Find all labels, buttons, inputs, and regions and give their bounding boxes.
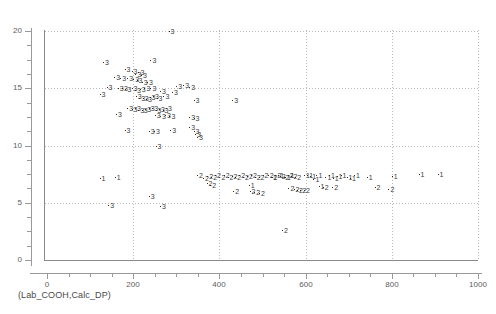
data-point-dot bbox=[127, 108, 128, 109]
data-point-dot bbox=[150, 60, 151, 61]
data-point-dot bbox=[125, 89, 126, 90]
data-point-dot bbox=[224, 175, 225, 176]
y-tick-minor bbox=[27, 45, 31, 46]
data-point-group-label: 1 bbox=[318, 172, 322, 179]
data-point-dot bbox=[122, 88, 123, 89]
data-point-dot bbox=[259, 177, 260, 178]
data-point-dot bbox=[228, 177, 229, 178]
data-point-dot bbox=[275, 175, 276, 176]
data-point-group-label: 1 bbox=[356, 172, 360, 179]
data-point-group-label: 3 bbox=[146, 85, 150, 92]
data-point-dot bbox=[319, 186, 320, 187]
x-tick-label: 800 bbox=[372, 281, 412, 289]
x-tick-minor bbox=[284, 273, 285, 277]
data-point-dot bbox=[316, 175, 317, 176]
data-point-dot bbox=[120, 78, 121, 79]
data-point-group-label: 3 bbox=[171, 28, 175, 35]
x-tick-major bbox=[392, 273, 393, 279]
x-tick-minor bbox=[349, 273, 350, 277]
data-point-group-label: 3 bbox=[127, 127, 131, 134]
data-point-dot bbox=[157, 98, 158, 99]
data-point-group-label: 1 bbox=[394, 173, 398, 180]
data-point-group-label: 2 bbox=[265, 172, 269, 179]
data-point-dot bbox=[142, 82, 143, 83]
data-point-dot bbox=[259, 193, 260, 194]
data-point-group-label: 1 bbox=[421, 171, 425, 178]
data-point-dot bbox=[138, 72, 139, 73]
data-point-dot bbox=[137, 80, 138, 81]
gridline-vertical bbox=[133, 30, 134, 260]
data-point-dot bbox=[197, 137, 198, 138]
x-tick-minor bbox=[155, 273, 156, 277]
y-tick-label: 20 bbox=[0, 27, 22, 35]
data-point-dot bbox=[210, 185, 211, 186]
y-tick-minor bbox=[27, 131, 31, 132]
data-point-group-label: 2 bbox=[212, 182, 216, 189]
data-point-dot bbox=[127, 78, 128, 79]
data-point-dot bbox=[142, 110, 143, 111]
data-point-group-label: 3 bbox=[162, 203, 166, 210]
data-point-group-label: 3 bbox=[196, 97, 200, 104]
data-point-dot bbox=[304, 190, 305, 191]
x-tick-minor bbox=[327, 273, 328, 277]
data-point-group-label: 2 bbox=[334, 184, 338, 191]
data-point-dot bbox=[189, 87, 190, 88]
x-axis-spine bbox=[44, 260, 478, 261]
data-point-dot bbox=[150, 97, 151, 98]
x-tick-major bbox=[219, 273, 220, 279]
data-point-dot bbox=[155, 115, 156, 116]
data-point-dot bbox=[107, 87, 108, 88]
data-point-dot bbox=[135, 74, 136, 75]
data-point-dot bbox=[341, 175, 342, 176]
data-point-group-label: 1 bbox=[102, 175, 106, 182]
data-point-group-label: 2 bbox=[261, 190, 265, 197]
data-point-dot bbox=[310, 176, 311, 177]
data-point-dot bbox=[139, 98, 140, 99]
data-point-group-label: 1 bbox=[117, 174, 121, 181]
data-point-dot bbox=[247, 176, 248, 177]
x-tick-label: 600 bbox=[286, 281, 326, 289]
data-point-dot bbox=[243, 177, 244, 178]
x-tick-minor bbox=[112, 273, 113, 277]
data-point-group-label: 2 bbox=[306, 187, 310, 194]
y-tick-label: 0 bbox=[0, 256, 22, 264]
data-point-dot bbox=[166, 108, 167, 109]
data-point-dot bbox=[249, 185, 250, 186]
data-point-dot bbox=[194, 118, 195, 119]
data-point-dot bbox=[183, 85, 184, 86]
data-point-dot bbox=[115, 177, 116, 178]
data-point-dot bbox=[263, 175, 264, 176]
x-tick-minor bbox=[263, 273, 264, 277]
data-point-dot bbox=[288, 175, 289, 176]
data-point-dot bbox=[132, 88, 133, 89]
data-point-group-label: 3 bbox=[162, 113, 166, 120]
data-point-dot bbox=[132, 109, 133, 110]
data-point-dot bbox=[207, 176, 208, 177]
data-point-dot bbox=[135, 90, 136, 91]
x-tick-minor bbox=[241, 273, 242, 277]
data-point-group-label: 3 bbox=[127, 86, 131, 93]
data-point-dot bbox=[108, 205, 109, 206]
data-point-dot bbox=[169, 31, 170, 32]
data-point-dot bbox=[282, 230, 283, 231]
data-point-dot bbox=[215, 175, 216, 176]
data-point-dot bbox=[116, 114, 117, 115]
y-axis-ruler bbox=[31, 28, 32, 266]
data-point-dot bbox=[268, 175, 269, 176]
data-point-dot bbox=[147, 82, 148, 83]
data-point-dot bbox=[118, 88, 119, 89]
gridline-vertical bbox=[306, 30, 307, 260]
data-point-dot bbox=[114, 77, 115, 78]
data-point-dot bbox=[323, 187, 324, 188]
data-point-dot bbox=[141, 75, 142, 76]
data-point-dot bbox=[160, 206, 161, 207]
data-point-dot bbox=[388, 189, 389, 190]
data-point-dot bbox=[197, 175, 198, 176]
y-tick-minor bbox=[27, 246, 31, 247]
x-tick-minor bbox=[69, 273, 70, 277]
y-tick-minor bbox=[27, 231, 31, 232]
data-point-dot bbox=[375, 187, 376, 188]
data-point-dot bbox=[219, 177, 220, 178]
data-point-group-label: 3 bbox=[165, 93, 169, 100]
data-point-dot bbox=[297, 190, 298, 191]
